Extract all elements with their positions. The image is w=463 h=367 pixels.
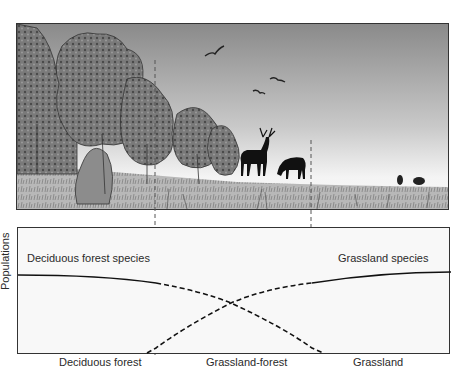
population-curves — [18, 228, 451, 355]
forest-species-label: Deciduous forest species — [27, 252, 150, 264]
forest-species-curve-solid — [18, 275, 156, 283]
x-label-grassland: Grassland — [353, 356, 403, 367]
x-label-deciduous-forest: Deciduous forest — [59, 356, 142, 367]
x-label-grassland-forest: Grassland-forest — [206, 356, 287, 367]
forest-species-curve-dashed — [156, 283, 323, 353]
population-chart — [17, 227, 450, 354]
grassland-species-curve-dashed — [147, 283, 312, 353]
grassland-species-label: Grassland species — [338, 252, 429, 264]
y-axis-label: Populations — [0, 233, 11, 291]
grassland-species-curve-solid — [312, 272, 451, 283]
